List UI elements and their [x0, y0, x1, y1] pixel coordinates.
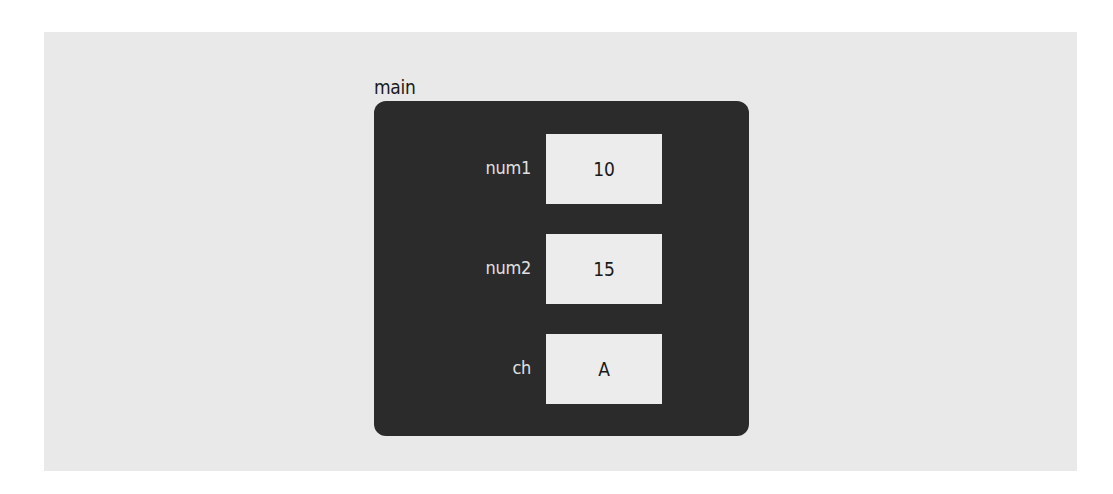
- stack-frame-label: main: [374, 76, 416, 98]
- variable-value-num1: 10: [593, 158, 615, 180]
- variable-name-num1: num1: [391, 157, 531, 178]
- variable-cell-num2: 15: [546, 234, 662, 304]
- variable-name-ch: ch: [391, 357, 531, 378]
- variable-value-ch: A: [598, 358, 610, 380]
- variable-cell-ch: A: [546, 334, 662, 404]
- variable-value-num2: 15: [593, 258, 615, 280]
- stack-frame-main: num1 10 num2 15 ch A: [374, 101, 749, 436]
- variable-cell-num1: 10: [546, 134, 662, 204]
- variable-name-num2: num2: [391, 257, 531, 278]
